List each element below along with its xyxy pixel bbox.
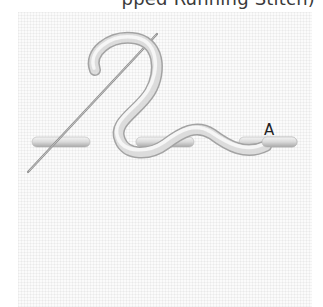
- stitch-illustration: [0, 0, 323, 307]
- running-stitch-1: [32, 137, 90, 147]
- point-label-a: A: [264, 121, 274, 139]
